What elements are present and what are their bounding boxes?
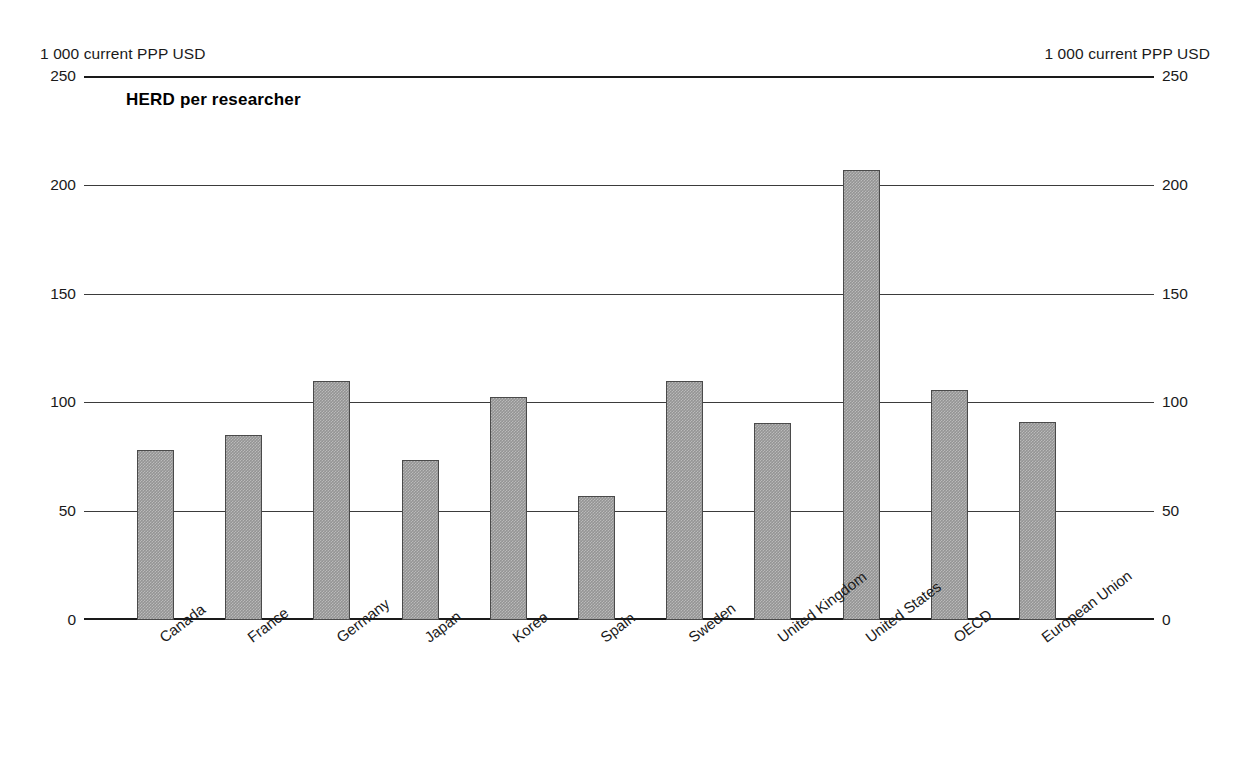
tick-stub-left-250 (84, 76, 110, 78)
tick-stub-right-100 (1128, 402, 1154, 403)
chart-page: 1 000 current PPP USD 1 000 current PPP … (0, 0, 1235, 765)
gridline-250 (110, 76, 1128, 78)
tick-stub-right-150 (1128, 294, 1154, 295)
bar-germany (313, 381, 350, 620)
tick-stub-right-250 (1128, 76, 1154, 78)
y-tick-label-left-250: 250 (50, 68, 76, 84)
bar-sweden (666, 381, 703, 620)
tick-stub-left-0 (84, 618, 110, 620)
left-axis-unit-label: 1 000 current PPP USD (40, 45, 206, 63)
y-tick-label-left-100: 100 (50, 395, 76, 411)
y-tick-label-left-50: 50 (59, 503, 76, 519)
y-tick-label-right-0: 0 (1162, 612, 1171, 628)
gridline-50 (110, 511, 1128, 512)
y-tick-label-left-200: 200 (50, 177, 76, 193)
bar-france (225, 435, 262, 620)
gridline-200 (110, 185, 1128, 186)
y-tick-label-left-0: 0 (67, 612, 76, 628)
tick-stub-left-50 (84, 511, 110, 512)
right-axis-unit-label: 1 000 current PPP USD (1044, 45, 1210, 63)
tick-stub-left-100 (84, 402, 110, 403)
bar-united-states (843, 170, 880, 620)
y-tick-label-right-50: 50 (1162, 503, 1179, 519)
y-tick-label-right-200: 200 (1162, 177, 1188, 193)
gridline-100 (110, 402, 1128, 403)
bar-canada (137, 450, 174, 620)
y-tick-label-right-100: 100 (1162, 395, 1188, 411)
tick-stub-left-200 (84, 185, 110, 186)
bar-spain (578, 496, 615, 620)
tick-stub-right-200 (1128, 185, 1154, 186)
plot-area: HERD per researcher 050100150200250 0501… (110, 76, 1128, 620)
y-tick-label-left-150: 150 (50, 286, 76, 302)
bar-united-kingdom (754, 423, 791, 620)
tick-stub-right-0 (1128, 618, 1154, 620)
chart-title: HERD per researcher (126, 90, 301, 110)
bar-korea (490, 397, 527, 620)
tick-stub-right-50 (1128, 511, 1154, 512)
tick-stub-left-150 (84, 294, 110, 295)
y-tick-label-right-250: 250 (1162, 68, 1188, 84)
bar-european-union (1019, 422, 1056, 620)
y-tick-label-right-150: 150 (1162, 286, 1188, 302)
gridline-150 (110, 294, 1128, 295)
bar-japan (402, 460, 439, 620)
